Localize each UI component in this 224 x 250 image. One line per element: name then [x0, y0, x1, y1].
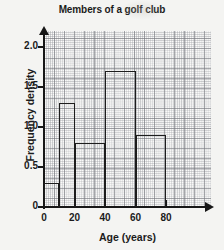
chart-title: Members of a golf club	[0, 4, 224, 15]
x-tick-label: 0	[32, 212, 56, 223]
histogram-figure: Members of a golf club 00.51.01.52.0 020…	[0, 0, 224, 250]
x-tick-label: 80	[154, 212, 178, 223]
histogram-bar	[44, 183, 59, 207]
x-axis-title: Age (years)	[44, 231, 211, 243]
y-axis-title: Frequency density	[24, 27, 36, 203]
x-tick-label: 20	[63, 212, 87, 223]
histogram-bar	[59, 103, 74, 207]
histogram-bar	[136, 135, 167, 207]
x-tick-label: 40	[93, 212, 117, 223]
histogram-bar	[75, 143, 106, 207]
histogram-bar	[105, 71, 136, 207]
x-tick-label: 60	[124, 212, 148, 223]
histogram-bars	[44, 31, 211, 207]
